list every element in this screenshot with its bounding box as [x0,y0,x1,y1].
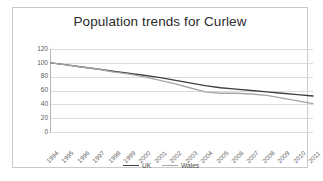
y-axis-tick-label: 20 [20,115,48,122]
chart-title: Population trends for Curlew [13,14,307,29]
legend-item-wales[interactable]: Wales [162,162,199,169]
y-axis-tick-label: 40 [20,101,48,108]
gridline [51,132,313,133]
y-axis-tick-label: 60 [20,87,48,94]
series-line-wales [51,63,313,104]
legend-item-uk[interactable]: UK [123,162,151,169]
x-axis-tick-labels: 1994199519961997199819992000200120022003… [51,134,313,164]
y-axis-tick-label: 100 [20,60,48,67]
legend-label: Wales [181,162,199,169]
y-axis-tick-label: 120 [20,46,48,53]
series-lines [51,49,313,132]
legend-swatch-uk-icon [123,165,139,166]
x-axis-tick-label: 2011 [308,150,322,164]
y-axis-tick-label: 0 [20,129,48,136]
chart-frame: Population trends for Curlew 02040608010… [12,7,308,168]
legend-swatch-wales-icon [162,165,178,166]
chart-legend: UKWales [13,162,309,169]
legend-label: UK [142,162,151,169]
y-axis-tick-labels: 020406080100120 [17,49,48,132]
y-axis-tick-label: 80 [20,73,48,80]
